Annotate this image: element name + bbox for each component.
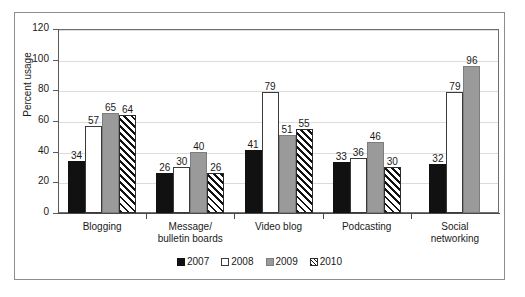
bar-value-label: 41 bbox=[247, 140, 258, 150]
y-axis-tick-label: 0 bbox=[43, 206, 49, 217]
y-axis-tick: 120 bbox=[53, 29, 58, 30]
bar-2009-2: 51 bbox=[279, 135, 296, 213]
bar-value-label: 33 bbox=[336, 152, 347, 162]
category-label: Podcasting bbox=[323, 221, 411, 233]
legend-item-2008[interactable]: 2008 bbox=[221, 256, 253, 267]
category-label-line: Video blog bbox=[234, 221, 322, 233]
chart-figure: Percent usage 020406080100120 3457656426… bbox=[14, 12, 505, 280]
y-axis-tick-label: 120 bbox=[32, 22, 49, 33]
bar-2008-0: 57 bbox=[85, 126, 102, 213]
y-axis-tick: 40 bbox=[53, 152, 58, 153]
legend-swatch-icon bbox=[221, 258, 229, 266]
category-label-line: networking bbox=[411, 233, 499, 245]
bar-value-label: 57 bbox=[88, 116, 99, 126]
bar-value-label: 79 bbox=[449, 82, 460, 92]
bar-value-label: 65 bbox=[105, 103, 116, 113]
bar-value-label: 36 bbox=[353, 148, 364, 158]
legend-item-2010[interactable]: 2010 bbox=[310, 256, 342, 267]
bar-2010-2: 55 bbox=[296, 129, 313, 213]
legend-swatch-icon bbox=[177, 258, 185, 266]
bar-2008-3: 36 bbox=[350, 158, 367, 213]
bar-2008-4: 79 bbox=[446, 92, 463, 213]
bar-2007-0: 34 bbox=[68, 161, 85, 213]
y-axis-title: Percent usage bbox=[22, 25, 33, 145]
y-axis-tick-label: 20 bbox=[38, 175, 49, 186]
y-axis-tick-label: 80 bbox=[38, 83, 49, 94]
gridline bbox=[59, 61, 498, 62]
category-label: Message/bulletin boards bbox=[146, 221, 234, 245]
bar-value-label: 40 bbox=[193, 142, 204, 152]
y-axis-tick: 80 bbox=[53, 90, 58, 91]
gridline bbox=[59, 30, 498, 31]
x-axis-tick bbox=[411, 214, 412, 219]
bar-2007-1: 26 bbox=[156, 173, 173, 213]
category-label: Video blog bbox=[234, 221, 322, 233]
legend-label: 2008 bbox=[231, 256, 253, 267]
bar-value-label: 55 bbox=[298, 119, 309, 129]
category-label: Socialnetworking bbox=[411, 221, 499, 245]
gridline bbox=[59, 91, 498, 92]
y-axis-tick-label: 40 bbox=[38, 145, 49, 156]
x-axis-tick bbox=[146, 214, 147, 219]
x-axis-tick bbox=[323, 214, 324, 219]
bar-2010-1: 26 bbox=[207, 173, 224, 213]
bar-2007-4: 32 bbox=[429, 164, 446, 213]
bar-value-label: 34 bbox=[71, 151, 82, 161]
bar-value-label: 32 bbox=[432, 154, 443, 164]
bar-value-label: 26 bbox=[210, 163, 221, 173]
category-label-line: Social bbox=[411, 221, 499, 233]
bar-2009-3: 46 bbox=[367, 142, 384, 213]
bar-value-label: 30 bbox=[387, 157, 398, 167]
x-axis-tick bbox=[234, 214, 235, 219]
chart-legend: 2007200820092010 bbox=[15, 256, 504, 267]
bar-2008-2: 79 bbox=[262, 92, 279, 213]
bar-value-label: 96 bbox=[466, 56, 477, 66]
bar-2007-2: 41 bbox=[245, 150, 262, 213]
bar-value-label: 26 bbox=[159, 163, 170, 173]
y-axis-line bbox=[58, 29, 59, 214]
bar-2010-3: 30 bbox=[384, 167, 401, 213]
y-axis-tick-label: 60 bbox=[38, 114, 49, 125]
legend-label: 2009 bbox=[276, 256, 298, 267]
y-axis-tick: 60 bbox=[53, 121, 58, 122]
bar-2009-4: 96 bbox=[463, 66, 480, 213]
category-label-line: Podcasting bbox=[323, 221, 411, 233]
bar-2008-1: 30 bbox=[173, 167, 190, 213]
bar-value-label: 30 bbox=[176, 157, 187, 167]
bar-value-label: 64 bbox=[122, 105, 133, 115]
category-label-line: Blogging bbox=[58, 221, 146, 233]
bar-2009-1: 40 bbox=[190, 152, 207, 213]
legend-swatch-icon bbox=[310, 258, 318, 266]
category-label-line: Message/ bbox=[146, 221, 234, 233]
bar-value-label: 79 bbox=[264, 82, 275, 92]
bar-value-label: 46 bbox=[370, 132, 381, 142]
y-axis-tick: 20 bbox=[53, 182, 58, 183]
legend-item-2007[interactable]: 2007 bbox=[177, 256, 209, 267]
legend-item-2009[interactable]: 2009 bbox=[266, 256, 298, 267]
bar-value-label: 51 bbox=[281, 125, 292, 135]
legend-label: 2007 bbox=[187, 256, 209, 267]
bar-2009-0: 65 bbox=[102, 113, 119, 213]
category-label-line: bulletin boards bbox=[146, 233, 234, 245]
y-axis-tick: 100 bbox=[53, 60, 58, 61]
category-label: Blogging bbox=[58, 221, 146, 233]
legend-swatch-icon bbox=[266, 258, 274, 266]
x-axis-line bbox=[58, 213, 500, 214]
y-axis-tick-label: 100 bbox=[32, 53, 49, 64]
legend-label: 2010 bbox=[320, 256, 342, 267]
bar-2010-0: 64 bbox=[119, 115, 136, 213]
bar-2007-3: 33 bbox=[333, 162, 350, 213]
